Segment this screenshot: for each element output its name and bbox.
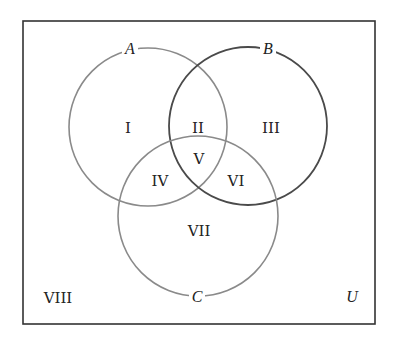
region-iii-label: III [262, 119, 280, 137]
universe-label: U [346, 288, 359, 305]
region-vii-label: VII [187, 222, 211, 240]
venn-diagram: A B C U I II III V IV VI VII VIII [0, 0, 395, 346]
region-viii-label: VIII [43, 289, 73, 307]
region-iv-label: IV [152, 172, 170, 190]
region-ii-label: II [192, 119, 204, 137]
region-v-label: V [193, 150, 206, 168]
set-a-label: A [124, 40, 135, 57]
set-b-label: B [263, 40, 273, 57]
region-vi-label: VI [227, 172, 245, 190]
set-c-label: C [192, 288, 203, 305]
region-i-label: I [125, 119, 131, 137]
